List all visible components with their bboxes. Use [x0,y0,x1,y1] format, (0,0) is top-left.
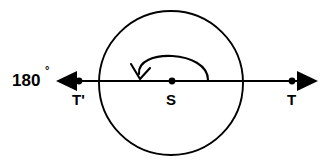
point-label-t: T [287,91,296,108]
figure-canvas: 180 ° T' S T [0,0,334,167]
point-dot-t-prime [76,78,83,85]
geometry-figure: 180 ° T' S T [0,0,334,167]
point-dot-t [289,78,296,85]
arrow-left-icon [56,71,77,91]
point-label-t-prime: T' [72,91,85,108]
point-dot-s [169,78,176,85]
point-label-s: S [166,91,176,108]
degree-symbol-icon: ° [45,64,49,76]
arrow-right-icon [297,71,318,91]
angle-label: 180 [12,71,40,90]
